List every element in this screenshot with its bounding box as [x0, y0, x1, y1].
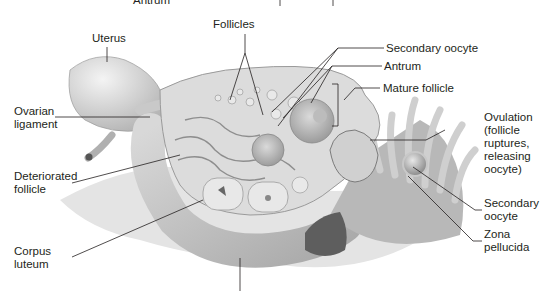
secondary-follicle	[252, 134, 284, 166]
label-mature-follicle: Mature follicle	[383, 82, 454, 95]
ovary-diagram: Antrum Uterus Follicles Secondary oocyte…	[0, 0, 553, 291]
label-follicles: Follicles	[213, 18, 255, 31]
corpus-luteum-shape	[203, 178, 243, 210]
label-ovarian-ligament: Ovarian ligament	[14, 105, 57, 131]
label-uterus: Uterus	[92, 32, 126, 45]
mature-follicle-shape	[290, 99, 334, 143]
label-ovulation: Ovulation (follicle ruptures, releasing …	[484, 111, 533, 176]
label-zona-pellucida: Zona pellucida	[484, 228, 529, 254]
label-secondary-oocyte-right: Secondary oocyte	[484, 197, 539, 223]
released-oocyte-shape	[403, 152, 427, 176]
label-antrum-top: Antrum	[133, 0, 170, 7]
label-antrum: Antrum	[384, 60, 421, 73]
label-corpus-luteum: Corpus luteum	[14, 245, 51, 271]
label-secondary-oocyte-top: Secondary oocyte	[386, 42, 478, 55]
label-deteriorated-follicle: Deteriorated follicle	[14, 170, 77, 196]
